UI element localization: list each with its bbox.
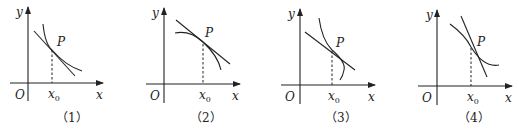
y-axis-label: y xyxy=(15,5,23,19)
origin-label: O xyxy=(285,90,295,104)
x-axis-label: x xyxy=(368,90,375,104)
figure-3: y O x P x0 （3） xyxy=(281,7,375,125)
x0-label: x0 xyxy=(48,87,60,103)
x0-label: x0 xyxy=(467,90,479,106)
x-axis-label: x xyxy=(505,91,512,105)
tangent-line xyxy=(176,20,230,64)
figure-caption: （3） xyxy=(325,111,357,125)
origin-label: O xyxy=(150,89,160,103)
tangent-line xyxy=(34,31,75,76)
point-p-label: P xyxy=(204,26,214,40)
x-axis-label: x xyxy=(96,88,103,102)
origin-label: O xyxy=(15,88,25,102)
point-p-label: P xyxy=(56,35,66,49)
figure-caption: （1） xyxy=(56,111,88,125)
figure-caption: （4） xyxy=(458,111,490,125)
figure-1: y O x P x0 （1） xyxy=(10,5,103,125)
point-p-label: P xyxy=(476,35,486,49)
y-axis-label: y xyxy=(151,6,159,20)
y-axis-label: y xyxy=(425,8,433,22)
y-axis-label: y xyxy=(287,7,295,21)
x0-label: x0 xyxy=(328,89,340,105)
figure-caption: （2） xyxy=(190,111,222,125)
tangent-line xyxy=(305,32,355,70)
x0-label: x0 xyxy=(199,88,211,104)
point-p-label: P xyxy=(335,36,345,50)
figure-2: y O x P x0 （2） xyxy=(146,6,240,125)
x-axis-label: x xyxy=(232,89,239,103)
tangent-line-diagrams: y O x P x0 （1） y O x P x0 （2） y O x P x0… xyxy=(0,0,519,137)
figure-4: y O x P x0 （4） xyxy=(418,8,512,125)
curve xyxy=(450,24,499,65)
origin-label: O xyxy=(422,91,432,105)
